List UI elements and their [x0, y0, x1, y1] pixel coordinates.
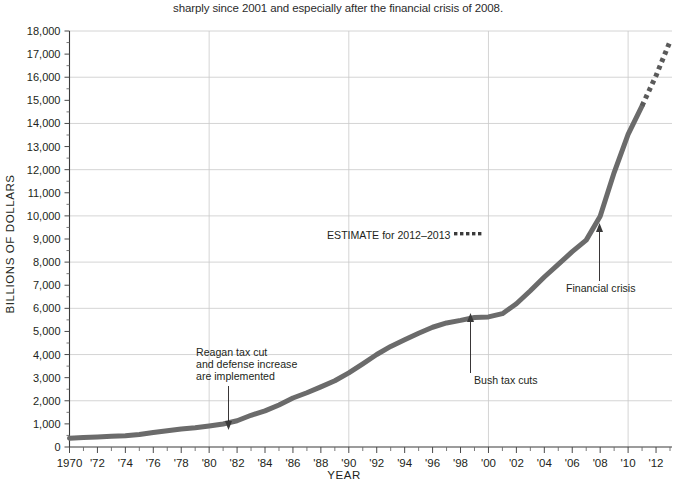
- x-axis-tick-label: '86: [285, 457, 300, 469]
- y-axis-tick-label: 10,000: [27, 210, 61, 222]
- y-axis-tick-label: 1,000: [33, 418, 61, 430]
- y-axis-tick-label: 5,000: [33, 325, 61, 337]
- y-axis-tick-labels: 01,0002,0003,0004,0005,0006,0007,0008,00…: [27, 25, 61, 453]
- estimate-swatch-dot: [454, 232, 457, 235]
- x-axis-ticks: [70, 447, 671, 453]
- x-axis-tick-label: '82: [230, 457, 245, 469]
- reagan-annotation-line3: are implemented: [196, 370, 275, 382]
- x-axis-tick-label: '06: [565, 457, 580, 469]
- debt-line-chart: 01,0002,0003,0004,0005,0006,0007,0008,00…: [0, 0, 676, 486]
- annotation-financial-crisis: Financial crisis: [566, 223, 635, 294]
- y-axis-tick-label: 3,000: [33, 372, 61, 384]
- x-axis-tick-label: '02: [509, 457, 524, 469]
- crisis-annotation-label: Financial crisis: [566, 282, 635, 294]
- x-axis-tick-label: '78: [174, 457, 189, 469]
- x-axis-tick-label: '94: [397, 457, 413, 469]
- estimate-dotted-swatch-icon: [454, 232, 481, 235]
- x-axis-tick-label: '90: [341, 457, 356, 469]
- y-axis-tick-label: 4,000: [33, 349, 61, 361]
- estimate-legend-label: ESTIMATE for 2012–2013: [327, 229, 451, 241]
- y-axis-tick-label: 16,000: [27, 71, 61, 83]
- reagan-annotation-line1: Reagan tax cut: [196, 346, 267, 358]
- y-axis-tick-label: 9,000: [33, 233, 61, 245]
- y-axis-tick-label: 11,000: [28, 187, 61, 199]
- bush-annotation-label: Bush tax cuts: [474, 374, 538, 386]
- x-axis-tick-label: '12: [649, 457, 664, 469]
- annotation-bush: Bush tax cuts: [467, 313, 538, 386]
- y-axis-tick-label: 6,000: [33, 302, 61, 314]
- chart-canvas: 01,0002,0003,0004,0005,0006,0007,0008,00…: [0, 0, 676, 486]
- x-axis-tick-label: '04: [537, 457, 553, 469]
- x-axis-tick-label: '72: [90, 457, 105, 469]
- x-axis-tick-label: '96: [425, 457, 440, 469]
- x-axis-tick-label: '08: [593, 457, 608, 469]
- x-axis-tick-label: '00: [481, 457, 496, 469]
- y-axis-tick-label: 0: [54, 441, 60, 453]
- y-axis-tick-label: 18,000: [27, 25, 61, 37]
- x-axis-tick-labels: 1970'72'74'76'78'80'82'84'86'88'90'92'94…: [57, 457, 664, 469]
- x-axis-tick-label: '74: [118, 457, 134, 469]
- x-axis-tick-label: 1970: [57, 457, 83, 469]
- x-axis-tick-label: '88: [313, 457, 328, 469]
- reagan-annotation-line2: and defense increase: [196, 358, 297, 370]
- y-axis-tick-label: 17,000: [27, 48, 61, 60]
- y-axis-tick-label: 13,000: [27, 141, 61, 153]
- y-axis-title: BILLIONS OF DOLLARS: [4, 174, 16, 313]
- debt-line-estimate-dotted: [642, 41, 670, 105]
- x-axis-title: YEAR: [327, 469, 361, 481]
- y-axis-ticks: [65, 31, 70, 447]
- estimate-swatch-dot: [472, 232, 475, 235]
- y-axis-tick-label: 8,000: [33, 256, 61, 268]
- y-axis-tick-label: 7,000: [33, 279, 61, 291]
- x-axis-tick-label: '98: [453, 457, 468, 469]
- x-axis-tick-label: '76: [146, 457, 161, 469]
- estimate-swatch-dot: [478, 232, 481, 235]
- debt-line-solid: [70, 106, 643, 438]
- y-axis-tick-label: 14,000: [27, 117, 61, 129]
- x-axis-tick-label: '10: [621, 457, 636, 469]
- estimate-swatch-dot: [466, 232, 469, 235]
- x-axis-tick-label: '92: [369, 457, 384, 469]
- y-axis-tick-label: 2,000: [33, 395, 61, 407]
- y-axis-tick-label: 15,000: [27, 94, 61, 106]
- estimate-swatch-dot: [460, 232, 463, 235]
- y-axis-tick-label: 12,000: [27, 164, 61, 176]
- annotation-estimate: ESTIMATE for 2012–2013: [327, 229, 481, 241]
- x-axis-tick-label: '80: [202, 457, 217, 469]
- x-axis-tick-label: '84: [258, 457, 274, 469]
